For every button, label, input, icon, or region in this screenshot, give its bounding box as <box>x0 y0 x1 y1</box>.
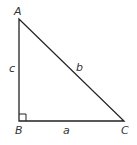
side-c-label: c <box>9 62 15 75</box>
side-a-label: a <box>63 124 70 137</box>
vertex-c-label: C <box>121 124 129 137</box>
right-triangle-diagram: A B C a b c <box>0 0 137 145</box>
vertex-b-label: B <box>15 124 23 137</box>
vertex-a-label: A <box>13 5 22 18</box>
triangle-shape <box>19 19 124 121</box>
right-angle-marker <box>19 114 26 121</box>
side-b-label: b <box>76 61 83 74</box>
